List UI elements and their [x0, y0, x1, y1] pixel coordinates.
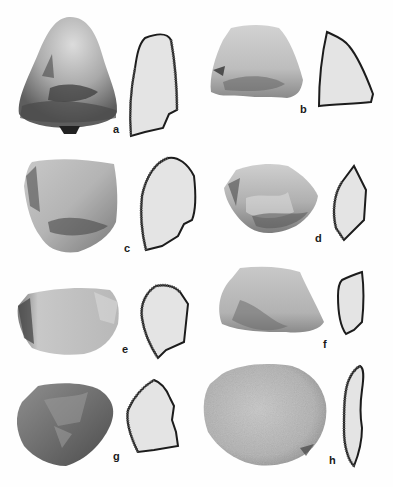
artifact-a-profile: [125, 32, 185, 137]
artifact-a-photo: [14, 14, 124, 134]
artifact-d-photo: [222, 160, 322, 240]
label-h: h: [329, 455, 336, 466]
label-c: c: [124, 243, 130, 254]
artifact-g-photo: [14, 382, 118, 468]
label-g: g: [113, 451, 120, 462]
artifact-e-profile: [136, 282, 194, 362]
artifact-c-profile: [138, 154, 198, 254]
artifact-e-photo: [14, 284, 124, 359]
artifact-c-photo: [22, 156, 122, 256]
artifact-d-profile: [330, 164, 372, 246]
artifact-f-profile: [334, 270, 366, 338]
artifact-g-profile: [120, 376, 188, 458]
artifact-h-photo: [200, 360, 330, 470]
label-b: b: [300, 104, 307, 115]
label-d: d: [315, 233, 322, 244]
label-e: e: [122, 344, 128, 355]
artifact-h-profile: [340, 364, 368, 470]
label-a: a: [113, 124, 119, 135]
label-f: f: [323, 339, 327, 350]
artifact-b-photo: [203, 22, 308, 102]
artifact-b-profile: [315, 28, 380, 110]
artifact-f-photo: [214, 264, 326, 336]
artifact-plate: a b: [0, 0, 393, 487]
